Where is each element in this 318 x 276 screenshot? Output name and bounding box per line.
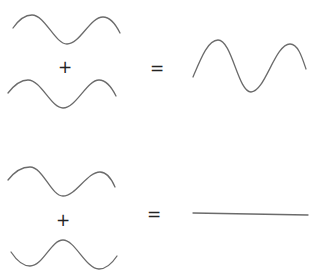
row1-input-wave-1 xyxy=(13,15,120,44)
row2-result-flat-line xyxy=(193,213,308,215)
row1-result-wave xyxy=(193,40,306,92)
row2-input-wave-2 xyxy=(11,240,117,269)
row1-plus-sign: + xyxy=(58,59,72,76)
row1-equals-sign: = xyxy=(150,60,164,77)
row2-input-wave-1 xyxy=(8,167,115,196)
row2-plus-sign: + xyxy=(56,212,70,229)
row2-equals-sign: = xyxy=(147,206,161,223)
interference-diagram xyxy=(0,0,318,276)
row1-input-wave-2 xyxy=(8,80,116,108)
